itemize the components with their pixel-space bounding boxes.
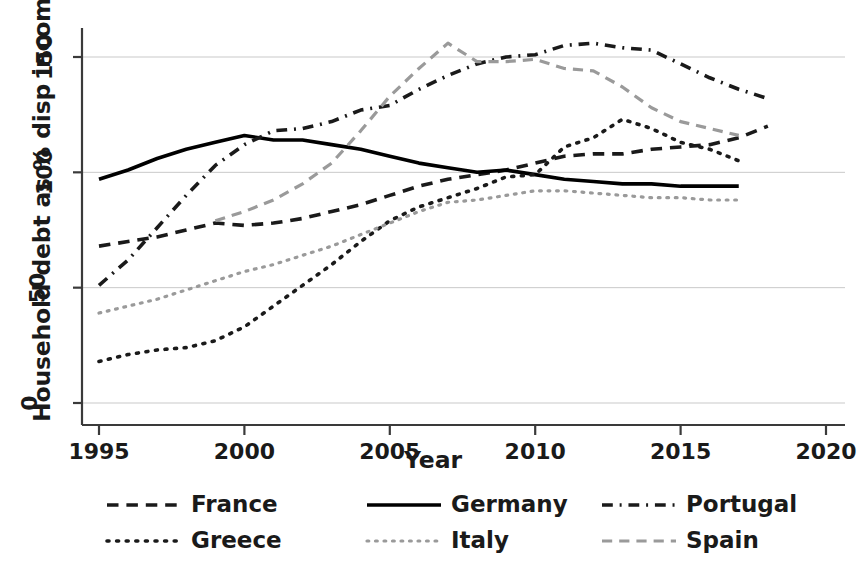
series-line-greece	[99, 119, 739, 361]
legend-item-france[interactable]: France	[105, 491, 365, 517]
series-line-germany	[99, 135, 739, 186]
legend-item-greece[interactable]: Greece	[105, 527, 365, 553]
legend-swatch-portugal	[600, 497, 678, 511]
series-line-spain	[215, 43, 738, 221]
legend-item-germany[interactable]: Germany	[365, 491, 600, 517]
legend-swatch-greece	[105, 533, 183, 547]
legend-item-italy[interactable]: Italy	[365, 527, 600, 553]
legend-label: Spain	[686, 527, 759, 553]
y-tick-label: 150	[32, 34, 57, 80]
legend-swatch-spain	[600, 533, 678, 547]
legend-label: Italy	[451, 527, 509, 553]
legend-label: Germany	[451, 491, 568, 517]
y-tick-label: 100	[32, 149, 57, 195]
legend-item-spain[interactable]: Spain	[600, 527, 840, 553]
x-axis-title: Year	[0, 446, 866, 474]
plot-area	[0, 0, 866, 569]
legend-label: Greece	[191, 527, 282, 553]
legend-swatch-germany	[365, 497, 443, 511]
series-line-italy	[99, 191, 739, 313]
legend-label: Portugal	[686, 491, 797, 517]
legend-swatch-france	[105, 497, 183, 511]
legend-swatch-italy	[365, 533, 443, 547]
legend-label: France	[191, 491, 278, 517]
legend-item-portugal[interactable]: Portugal	[600, 491, 840, 517]
y-tick-label: 50	[25, 272, 50, 303]
chart-legend: FranceGermanyPortugalGreeceItalySpain	[105, 486, 805, 558]
y-tick-label: 0	[17, 395, 42, 410]
chart-figure: Household debt as % disp income 19952000…	[0, 0, 866, 569]
